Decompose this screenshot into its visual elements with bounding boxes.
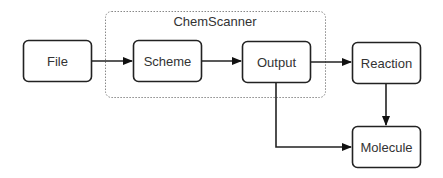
node-scheme-label: Scheme bbox=[144, 54, 192, 69]
node-output: Output bbox=[243, 42, 311, 83]
node-output-label: Output bbox=[257, 55, 296, 70]
node-molecule: Molecule bbox=[353, 127, 421, 168]
node-file: File bbox=[24, 41, 92, 82]
flow-diagram: ChemScanner File Scheme Output Reaction … bbox=[0, 0, 443, 178]
node-file-label: File bbox=[47, 54, 68, 69]
node-molecule-label: Molecule bbox=[360, 140, 412, 155]
node-reaction-label: Reaction bbox=[361, 56, 412, 71]
node-scheme: Scheme bbox=[134, 41, 202, 82]
edge-output-molecule bbox=[276, 83, 351, 147]
container-label: ChemScanner bbox=[173, 14, 257, 29]
node-reaction: Reaction bbox=[353, 43, 421, 84]
